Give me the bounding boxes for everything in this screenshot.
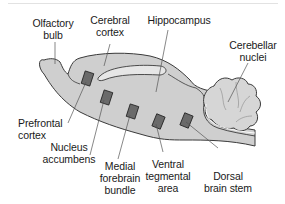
label-medial-forebrain-bundle: Medial forebrain bundle xyxy=(98,160,142,196)
label-prefrontal-cortex: Prefrontal cortex xyxy=(18,117,63,141)
label-ventral-tegmental-area: Ventral tegmental area xyxy=(145,158,191,194)
label-nucleus-accumbens: Nucleus accumbens xyxy=(40,141,98,165)
label-olfactory-bulb: Olfactory bulb xyxy=(30,17,76,41)
label-cerebral-cortex: Cerebral cortex xyxy=(88,14,132,38)
label-cerebellar-nuclei: Cerebellar nuclei xyxy=(225,39,281,63)
label-dorsal-brain-stem: Dorsal brain stem xyxy=(200,170,256,194)
label-hippocampus: Hippocampus xyxy=(146,14,212,26)
brain-diagram: Olfactory bulb Cerebral cortex Hippocamp… xyxy=(0,0,285,204)
